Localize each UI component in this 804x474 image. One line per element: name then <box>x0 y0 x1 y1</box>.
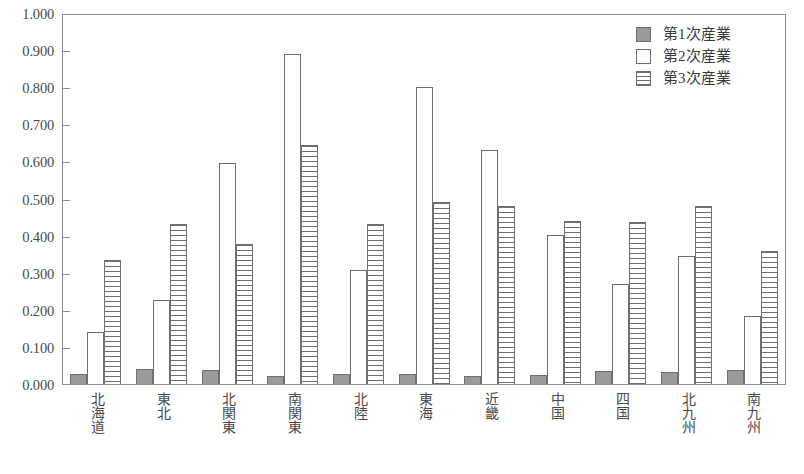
bar-series2 <box>350 270 367 384</box>
y-tick-label: 0.600 <box>22 155 54 170</box>
bar-group <box>63 15 129 384</box>
legend-label: 第2次産業 <box>663 49 731 64</box>
chart-legend: 第1次産業第2次産業第3次産業 <box>636 27 731 86</box>
bar-series1 <box>530 375 547 384</box>
bar-series1 <box>70 374 87 384</box>
bar-series1 <box>267 376 284 384</box>
y-tick-label: 0.000 <box>22 378 54 393</box>
x-label-cell: 東海 <box>391 392 457 474</box>
bar-series1 <box>727 370 744 384</box>
bar-group <box>522 15 588 384</box>
bar-series1 <box>595 371 612 384</box>
x-tick-label: 東海 <box>416 392 433 420</box>
x-label-cell: 近畿 <box>457 392 523 474</box>
bar-group <box>391 15 457 384</box>
legend-label: 第3次産業 <box>663 71 731 86</box>
x-label-cell: 南九州 <box>719 392 785 474</box>
striped-swatch <box>636 71 651 86</box>
y-tick-label: 0.300 <box>22 266 54 281</box>
bar-group <box>457 15 523 384</box>
y-tick-label: 1.000 <box>22 7 54 22</box>
bar-series2 <box>547 235 564 384</box>
x-tick-label: 北陸 <box>350 392 367 420</box>
bar-series1 <box>136 369 153 384</box>
x-label-cell: 中国 <box>522 392 588 474</box>
bar-series3 <box>170 224 187 385</box>
bar-series1 <box>464 376 481 384</box>
bar-series1 <box>399 374 416 384</box>
x-tick-label: 北九州 <box>678 392 695 434</box>
y-tick-label: 0.900 <box>22 44 54 59</box>
y-tick-label: 0.700 <box>22 118 54 133</box>
x-axis: 北海道東北北関東南関東北陸東海近畿中国四国北九州南九州 <box>63 392 785 474</box>
x-tick-label: 北海道 <box>88 392 105 434</box>
bar-series2 <box>219 163 236 384</box>
x-tick-label: 南関東 <box>284 392 301 434</box>
x-tick-label: 四国 <box>613 392 630 420</box>
x-tick-label: 近畿 <box>481 392 498 420</box>
bar-chart: 1.0000.9000.8000.7000.6000.5000.4000.300… <box>0 0 804 474</box>
bar-series3 <box>301 145 318 384</box>
bar-series3 <box>104 260 121 384</box>
legend-label: 第1次産業 <box>663 27 731 42</box>
x-label-cell: 四国 <box>588 392 654 474</box>
bar-series2 <box>153 300 170 384</box>
white-swatch <box>636 49 651 64</box>
y-tick-label: 0.200 <box>22 304 54 319</box>
bar-series3 <box>236 244 253 384</box>
x-label-cell: 北九州 <box>654 392 720 474</box>
bar-series1 <box>202 370 219 384</box>
x-tick-label: 中国 <box>547 392 564 420</box>
legend-item: 第1次産業 <box>636 27 731 42</box>
bar-group <box>260 15 326 384</box>
bar-series1 <box>333 374 350 384</box>
x-tick-label: 東北 <box>153 392 170 420</box>
x-tick-label: 北関東 <box>219 392 236 434</box>
bar-series2 <box>678 256 695 384</box>
y-tick-label: 0.800 <box>22 81 54 96</box>
x-label-cell: 北陸 <box>326 392 392 474</box>
x-label-cell: 南関東 <box>260 392 326 474</box>
y-tick-label: 0.500 <box>22 192 54 207</box>
legend-item: 第3次産業 <box>636 71 731 86</box>
solid-gray-swatch <box>636 27 651 42</box>
bar-series2 <box>284 54 301 384</box>
bar-series2 <box>87 332 104 384</box>
bar-series3 <box>367 224 384 385</box>
bar-series2 <box>481 150 498 384</box>
x-tick-label: 南九州 <box>744 392 761 434</box>
bar-series3 <box>695 206 712 384</box>
x-label-cell: 北関東 <box>194 392 260 474</box>
bar-series1 <box>661 372 678 384</box>
y-tick-label: 0.400 <box>22 229 54 244</box>
bar-series2 <box>744 316 761 384</box>
bar-series2 <box>416 87 433 384</box>
legend-item: 第2次産業 <box>636 49 731 64</box>
bar-series2 <box>612 284 629 384</box>
bar-series3 <box>433 202 450 384</box>
y-tick-label: 0.100 <box>22 341 54 356</box>
bar-group <box>194 15 260 384</box>
bar-group <box>129 15 195 384</box>
y-axis: 1.0000.9000.8000.7000.6000.5000.4000.300… <box>0 0 58 474</box>
bar-series3 <box>629 222 646 384</box>
x-label-cell: 東北 <box>129 392 195 474</box>
bar-series3 <box>761 251 778 384</box>
x-label-cell: 北海道 <box>63 392 129 474</box>
bar-series3 <box>564 221 581 384</box>
bar-series3 <box>498 206 515 384</box>
bar-group <box>326 15 392 384</box>
